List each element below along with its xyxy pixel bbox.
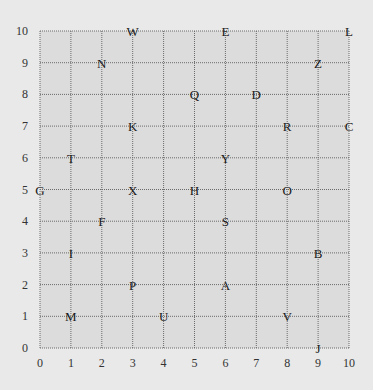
grid-letter-k: K — [128, 119, 138, 134]
grid-letter-y: Y — [221, 151, 231, 166]
grid-letter-g: G — [35, 183, 44, 198]
grid-letter-l: L — [345, 24, 353, 39]
grid-letter-t: T — [67, 151, 75, 166]
grid-letter-x: X — [128, 183, 138, 198]
grid-letter-c: C — [345, 119, 354, 134]
coordinate-grid: 012345678910012345678910WELNZQDKRCTYGXHO… — [0, 0, 373, 390]
x-axis-tick-label: 6 — [222, 356, 228, 370]
y-axis-tick-label: 3 — [22, 246, 28, 260]
grid-letter-o: O — [283, 183, 292, 198]
grid-letter-w: W — [127, 24, 140, 39]
x-axis-tick-label: 1 — [68, 356, 74, 370]
x-axis-tick-label: 8 — [284, 356, 290, 370]
y-axis-tick-label: 6 — [22, 151, 28, 165]
y-axis-tick-label: 0 — [22, 341, 28, 355]
grid-letter-r: R — [283, 119, 292, 134]
x-axis-tick-label: 2 — [99, 356, 105, 370]
y-axis-tick-label: 7 — [22, 119, 28, 133]
x-axis-tick-label: 5 — [192, 356, 198, 370]
grid-letter-d: D — [252, 87, 261, 102]
grid-letter-m: M — [65, 309, 77, 324]
grid-letter-p: P — [129, 278, 136, 293]
grid-letter-e: E — [221, 24, 229, 39]
grid-letter-v: V — [283, 309, 293, 324]
y-axis-tick-label: 1 — [22, 309, 28, 323]
grid-letter-n: N — [97, 56, 107, 71]
grid-letter-s: S — [222, 214, 229, 229]
grid-letter-i: I — [69, 246, 73, 261]
x-axis-tick-label: 0 — [37, 356, 43, 370]
y-axis-tick-label: 10 — [16, 24, 28, 38]
x-axis-tick-label: 3 — [130, 356, 136, 370]
grid-letter-a: A — [221, 278, 231, 293]
x-axis-tick-label: 9 — [315, 356, 321, 370]
letter-grid-diagram: 012345678910012345678910WELNZQDKRCTYGXHO… — [0, 0, 373, 390]
x-axis-tick-label: 7 — [253, 356, 259, 370]
grid-letter-z: Z — [314, 56, 322, 71]
y-axis-tick-label: 5 — [22, 183, 28, 197]
y-axis-tick-label: 2 — [22, 278, 28, 292]
grid-letter-h: H — [190, 183, 199, 198]
x-axis-tick-label: 4 — [161, 356, 167, 370]
y-axis-tick-label: 4 — [22, 214, 28, 228]
y-axis-tick-label: 9 — [22, 56, 28, 70]
grid-letter-f: F — [98, 214, 105, 229]
grid-letter-u: U — [159, 309, 169, 324]
grid-letter-b: B — [314, 246, 323, 261]
x-axis-tick-label: 10 — [343, 356, 355, 370]
y-axis-tick-label: 8 — [22, 87, 28, 101]
grid-letter-q: Q — [190, 87, 200, 102]
grid-letter-j: J — [316, 341, 321, 356]
